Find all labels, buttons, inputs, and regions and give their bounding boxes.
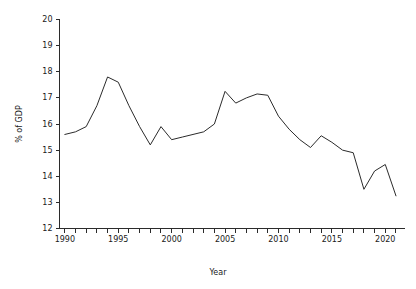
data-series-group bbox=[65, 77, 396, 196]
x-axis-tick-label: 1990 bbox=[55, 235, 75, 244]
x-axis: 1990199520002005201020152020 bbox=[55, 229, 405, 245]
x-axis-tick-label: 2005 bbox=[215, 235, 235, 244]
y-axis-tick-label: 18 bbox=[42, 67, 52, 76]
line-chart: 121314151617181920 199019952000200520102… bbox=[0, 0, 416, 289]
y-axis-tick-label: 19 bbox=[42, 41, 52, 50]
x-axis-title: Year bbox=[209, 268, 228, 277]
x-axis-tick-label: 2020 bbox=[375, 235, 395, 244]
x-axis-tick-label: 1995 bbox=[108, 235, 128, 244]
y-axis: 121314151617181920 bbox=[42, 15, 59, 233]
y-axis-tick-label: 12 bbox=[42, 224, 52, 233]
y-axis-tick-label: 13 bbox=[42, 198, 52, 207]
x-axis-tick-label: 2000 bbox=[161, 235, 181, 244]
y-axis-tick-label: 17 bbox=[42, 93, 52, 102]
y-axis-title: % of GDP bbox=[15, 105, 24, 143]
x-axis-tick-label: 2015 bbox=[322, 235, 342, 244]
chart-container: 121314151617181920 199019952000200520102… bbox=[0, 0, 416, 289]
data-series-line bbox=[65, 77, 396, 196]
y-axis-tick-label: 14 bbox=[42, 172, 52, 181]
y-axis-tick-label: 15 bbox=[42, 146, 52, 155]
y-axis-tick-label: 20 bbox=[42, 15, 52, 24]
x-axis-tick-label: 2010 bbox=[268, 235, 288, 244]
y-axis-tick-label: 16 bbox=[42, 120, 52, 129]
